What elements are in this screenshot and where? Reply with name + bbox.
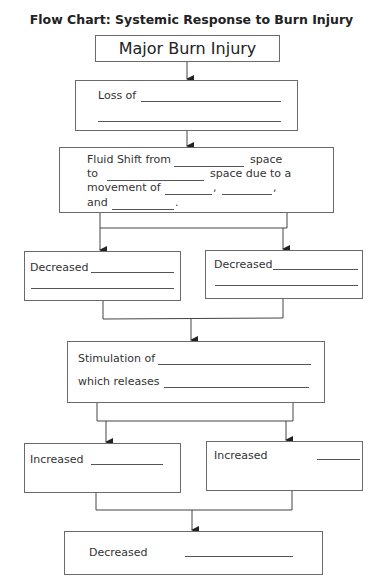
- blank-line[interactable]: [31, 288, 174, 289]
- node-label: Loss of: [98, 89, 136, 102]
- node-decreased-right: Decreased: [205, 250, 363, 299]
- blank-line[interactable]: [215, 285, 358, 286]
- node-increased-left: Increased: [24, 443, 181, 493]
- blank-line[interactable]: [158, 364, 311, 365]
- node-stimulation: Stimulation of which releases: [67, 341, 325, 403]
- blank-line[interactable]: [273, 269, 358, 270]
- node-text: .: [175, 196, 179, 209]
- node-text: which releases: [78, 375, 159, 388]
- blank-line[interactable]: [317, 459, 360, 460]
- node-increased-right: Increased: [206, 441, 363, 491]
- node-label: Decreased: [89, 546, 148, 559]
- blank-line[interactable]: [112, 209, 174, 210]
- node-text: and: [87, 196, 108, 209]
- node-text: Stimulation of: [78, 352, 155, 365]
- node-label: Increased: [214, 449, 268, 462]
- blank-line[interactable]: [98, 121, 281, 122]
- node-text: to: [87, 167, 98, 180]
- node-decreased-left: Decreased: [24, 251, 181, 301]
- node-decreased-final: Decreased: [64, 531, 323, 575]
- node-text: movement of: [87, 181, 161, 194]
- blank-line[interactable]: [141, 101, 281, 102]
- node-label: Decreased: [30, 261, 89, 274]
- node-loss-of: Loss of: [75, 80, 298, 131]
- blank-line[interactable]: [185, 556, 293, 557]
- node-text: space due to a: [210, 167, 291, 180]
- node-label: Major Burn Injury: [96, 39, 279, 58]
- blank-line[interactable]: [91, 272, 174, 273]
- blank-line[interactable]: [91, 464, 163, 465]
- node-label: Decreased: [214, 258, 273, 271]
- node-major-burn-injury: Major Burn Injury: [95, 35, 280, 62]
- node-text: space: [250, 153, 282, 166]
- node-text: ,: [273, 181, 277, 194]
- node-label: Increased: [30, 453, 84, 466]
- node-text: Fluid Shift from: [87, 153, 171, 166]
- blank-line[interactable]: [165, 194, 212, 195]
- blank-line[interactable]: [164, 387, 309, 388]
- blank-line[interactable]: [222, 194, 272, 195]
- node-fluid-shift: Fluid Shift from space to space due to a…: [59, 147, 334, 213]
- node-text: ,: [213, 181, 217, 194]
